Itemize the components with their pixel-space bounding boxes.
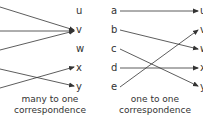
- right-target-w: w: [200, 43, 203, 54]
- right-target-u: u: [200, 5, 203, 16]
- arrow-b-to-w: [120, 30, 198, 49]
- left-target-w: w: [76, 43, 84, 54]
- right-caption-line2: correspondence: [119, 105, 192, 115]
- left-caption-line1: many to one: [22, 94, 79, 104]
- right-target-x: x: [200, 62, 203, 73]
- arrow-to-v-1: [0, 7, 74, 30]
- right-source-a: a: [111, 5, 117, 16]
- left-target-y: y: [76, 81, 82, 92]
- left-target-v: v: [76, 24, 82, 35]
- right-source-b: b: [111, 24, 117, 35]
- arrow-to-v-3: [0, 31, 74, 50]
- arrow-to-x: [0, 67, 74, 88]
- right-caption-line1: one to one: [131, 94, 180, 104]
- left-target-u: u: [76, 5, 82, 16]
- arrow-e-to-v: [120, 30, 198, 87]
- right-source-d: d: [111, 62, 117, 73]
- many-to-one-diagram: u v w x y many to one correspondence: [0, 5, 87, 115]
- right-target-v: v: [200, 24, 203, 35]
- right-source-e: e: [111, 81, 117, 92]
- arrow-c-to-y: [120, 49, 198, 86]
- correspondence-diagram: u v w x y many to one correspondence a b…: [0, 0, 203, 115]
- left-target-x: x: [76, 62, 82, 73]
- right-target-y: y: [200, 81, 203, 92]
- left-caption-line2: correspondence: [14, 105, 87, 115]
- right-source-c: c: [111, 43, 117, 54]
- one-to-one-diagram: a b c d e u v w x y one to one correspon…: [111, 5, 203, 115]
